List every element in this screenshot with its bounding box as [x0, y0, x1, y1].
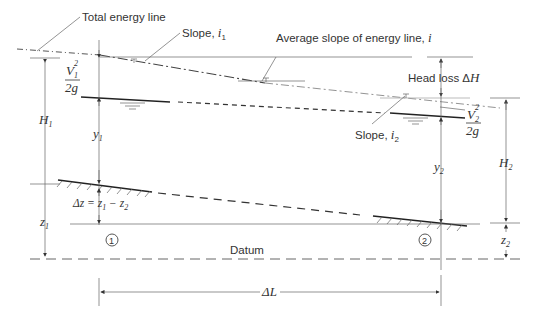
label-delta-z: Δz = z1 − z2 — [72, 197, 128, 212]
label-total-energy-line: Total energy line — [82, 11, 166, 23]
label-average-slope: Average slope of energy line, i — [276, 30, 432, 45]
svg-text:2g: 2g — [466, 123, 480, 138]
water-surface-symbol-2 — [403, 118, 428, 124]
label-head-loss: Head loss ΔH — [408, 70, 480, 85]
energy-diagram: Total energy line Slope, i1 Average slop… — [0, 0, 538, 326]
label-velocity-head-1: V12 2g — [65, 59, 80, 95]
label-section-2: 2 — [422, 236, 427, 246]
label-slope-i2: Slope, i2 — [355, 127, 399, 144]
label-delta-L: ΔL — [261, 284, 277, 299]
label-z1: z1 — [39, 214, 49, 231]
label-datum: Datum — [230, 244, 264, 256]
label-H2: H2 — [498, 155, 512, 172]
water-surface-symbol-1 — [120, 103, 145, 109]
leader-slope-i2 — [372, 96, 405, 124]
label-velocity-head-2: V22 2g — [466, 103, 481, 138]
water-surface — [81, 97, 465, 118]
svg-text:V22: V22 — [467, 103, 479, 124]
leader-total-energy — [37, 17, 80, 51]
label-section-1: 1 — [109, 236, 114, 246]
label-H1: H1 — [38, 112, 52, 129]
svg-text:2g: 2g — [65, 80, 79, 95]
svg-text:V12: V12 — [66, 59, 78, 80]
label-z2: z2 — [500, 232, 510, 249]
label-y1: y1 — [91, 126, 103, 143]
label-y2: y2 — [432, 159, 444, 176]
leader-avg-slope — [262, 57, 276, 81]
label-slope-i1: Slope, i1 — [182, 25, 226, 42]
